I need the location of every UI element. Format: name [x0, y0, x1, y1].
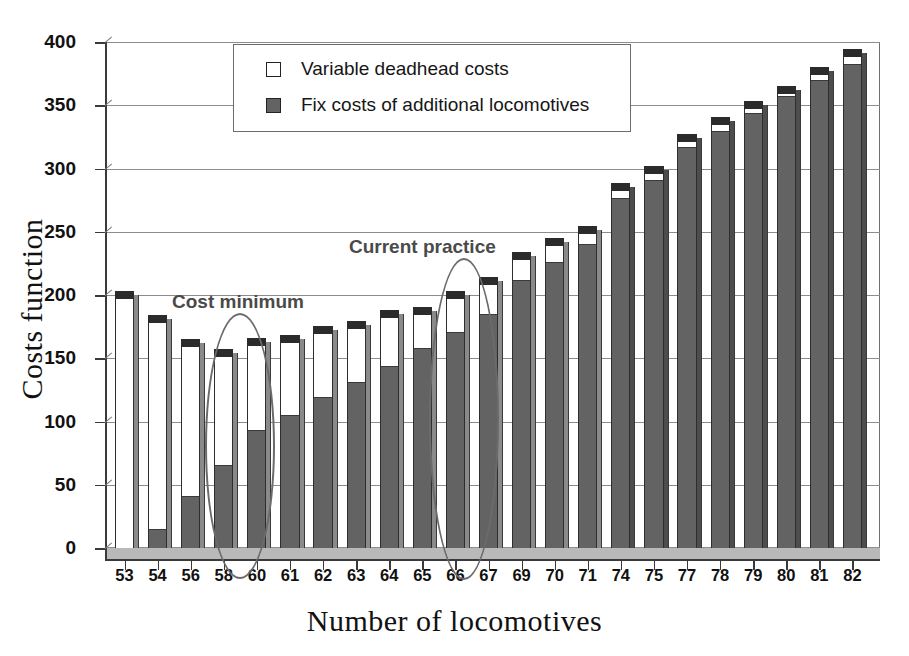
bar-79	[744, 101, 763, 548]
bar-top-cap	[512, 252, 531, 260]
x-tick-mark	[555, 561, 556, 570]
x-tick-mark	[753, 561, 754, 570]
bar-side-face	[862, 53, 867, 548]
bar-top-cap	[413, 307, 432, 315]
bar-side-face	[531, 256, 536, 548]
x-tick-mark	[158, 561, 159, 570]
y-tick-label: 300	[28, 158, 76, 180]
x-tick-mark	[489, 561, 490, 570]
bar-variable-segment	[711, 125, 730, 548]
bar-top-cap	[677, 134, 696, 142]
bar-53	[115, 291, 134, 548]
bar-fix-segment	[678, 147, 695, 548]
bar-top-cap	[313, 326, 332, 334]
bar-top-cap	[711, 117, 730, 125]
bar-variable-segment	[843, 57, 862, 548]
bar-fix-segment	[281, 415, 298, 548]
bar-variable-segment	[181, 347, 200, 548]
bar-variable-segment	[148, 323, 167, 548]
bar-61	[280, 335, 299, 548]
bar-fix-segment	[612, 198, 629, 548]
bar-variable-segment	[512, 260, 531, 548]
bar-71	[578, 226, 597, 548]
bar-variable-segment	[545, 246, 564, 548]
y-tick-label: 350	[28, 94, 76, 116]
bar-75	[644, 166, 663, 548]
x-tick-mark	[522, 561, 523, 570]
cost-minimum-label: Cost minimum	[172, 291, 304, 313]
x-tick-mark	[786, 561, 787, 570]
y-tick-label: 50	[28, 474, 76, 496]
bar-fix-segment	[381, 366, 398, 548]
x-tick-mark	[654, 561, 655, 570]
bar-variable-segment	[578, 234, 597, 548]
bar-variable-segment	[280, 343, 299, 548]
bar-top-cap	[744, 101, 763, 109]
bar-side-face	[300, 339, 305, 548]
bar-fix-segment	[348, 382, 365, 548]
x-tick-mark	[621, 561, 622, 570]
x-tick-mark	[720, 561, 721, 570]
x-tick-mark	[389, 561, 390, 570]
bar-side-face	[399, 314, 404, 548]
bar-variable-segment	[677, 142, 696, 548]
bar-78	[711, 117, 730, 548]
y-tick-label: 100	[28, 411, 76, 433]
bar-side-face	[730, 121, 735, 548]
bar-fix-segment	[414, 348, 431, 548]
bar-82	[843, 49, 862, 548]
y-tick-label: 200	[28, 284, 76, 306]
bar-77	[677, 134, 696, 548]
bar-side-face	[564, 242, 569, 548]
bar-variable-segment	[313, 334, 332, 548]
bar-side-face	[664, 170, 669, 548]
bar-side-face	[697, 138, 702, 548]
bar-56	[181, 339, 200, 548]
bar-variable-segment	[115, 299, 134, 548]
bar-top-cap	[843, 49, 862, 57]
bar-top-cap	[115, 291, 134, 299]
x-tick-mark	[852, 561, 853, 570]
legend-entry-fix-costs: Fix costs of additional locomotives	[266, 94, 589, 116]
bar-fix-segment	[811, 80, 828, 548]
bar-variable-segment	[611, 191, 630, 548]
legend-entry-variable-deadhead-costs: Variable deadhead costs	[266, 58, 509, 80]
x-tick-mark	[819, 561, 820, 570]
y-tick-mark	[95, 548, 105, 550]
current-practice-ellipse	[429, 258, 499, 580]
bar-54	[148, 315, 167, 548]
x-tick-mark	[290, 561, 291, 570]
chart-figure: Costs function Number of locomotives 050…	[0, 0, 909, 656]
bar-69	[512, 252, 531, 548]
bar-80	[777, 86, 796, 548]
y-tick-mark	[95, 105, 105, 107]
bar-fix-segment	[778, 96, 795, 548]
y-tick-mark	[95, 295, 105, 297]
x-tick-mark	[422, 561, 423, 570]
white-square-icon	[266, 62, 281, 77]
bar-variable-segment	[744, 109, 763, 548]
y-tick-mark	[95, 358, 105, 360]
x-tick-mark	[687, 561, 688, 570]
x-tick-mark	[356, 561, 357, 570]
x-tick-mark	[323, 561, 324, 570]
bar-variable-segment	[347, 329, 366, 548]
bar-side-face	[763, 105, 768, 548]
bar-fix-segment	[182, 496, 199, 548]
bar-74	[611, 183, 630, 548]
bar-fix-segment	[579, 244, 596, 548]
bar-side-face	[829, 71, 834, 548]
bar-fix-segment	[546, 262, 563, 548]
bar-side-face	[333, 330, 338, 548]
bar-top-cap	[380, 310, 399, 318]
bar-top-cap	[280, 335, 299, 343]
legend-label: Fix costs of additional locomotives	[301, 94, 589, 116]
gray-square-icon	[266, 98, 281, 113]
bar-side-face	[167, 319, 172, 548]
bar-fix-segment	[513, 280, 530, 548]
x-axis-title: Number of locomotives	[0, 604, 909, 638]
x-tick-mark	[588, 561, 589, 570]
bar-top-cap	[545, 238, 564, 246]
bar-top-cap	[644, 166, 663, 174]
bar-fix-segment	[149, 529, 166, 548]
